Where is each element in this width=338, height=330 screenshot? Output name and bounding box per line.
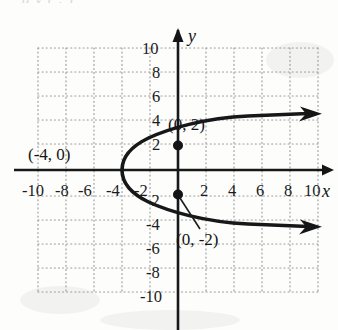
x-tick--10: -10 <box>22 181 44 200</box>
x-tick--6: -6 <box>78 181 92 200</box>
graph-figure: g y ( , ) <box>0 0 338 330</box>
label-upper-intercept: (0, 2) <box>168 115 205 134</box>
x-axis-label: x <box>321 181 330 201</box>
x-tick-6: 6 <box>256 181 264 200</box>
label-lower-intercept: (0, -2) <box>176 230 218 249</box>
x-tick-labels: -10 -8 -6 -4 -2 2 4 6 8 10 <box>22 181 321 200</box>
x-tick-2: 2 <box>200 181 208 200</box>
x-tick-8: 8 <box>284 181 292 200</box>
point-marker-0-neg2 <box>173 190 183 200</box>
x-tick--8: -8 <box>55 181 69 200</box>
y-tick-labels: 10 8 6 4 2 -2 -4 -6 -8 -10 <box>140 39 162 306</box>
y-tick-6: 6 <box>152 87 160 106</box>
y-tick-10: 10 <box>142 39 159 58</box>
y-axis-label: y <box>186 26 196 46</box>
y-tick-8: 8 <box>152 63 160 82</box>
y-tick--4: -4 <box>146 215 160 234</box>
x-tick--4: -4 <box>106 181 120 200</box>
y-tick--6: -6 <box>146 239 160 258</box>
y-tick--10: -10 <box>140 287 162 306</box>
label-vertex: (-4, 0) <box>28 145 70 164</box>
y-axis <box>173 28 184 330</box>
x-tick-4: 4 <box>228 181 236 200</box>
y-tick-4: 4 <box>152 111 160 130</box>
y-tick--2: -2 <box>146 191 160 210</box>
y-tick--8: -8 <box>146 263 160 282</box>
x-tick-10: 10 <box>304 181 321 200</box>
cropped-caption-fragment: g y ( , ) <box>22 0 252 3</box>
point-marker-0-2 <box>173 141 183 151</box>
x-axis <box>14 165 334 176</box>
coordinate-plane-svg: -10 -8 -6 -4 -2 2 4 6 8 10 10 8 6 4 2 -2… <box>0 0 338 330</box>
y-tick-2: 2 <box>152 135 160 154</box>
